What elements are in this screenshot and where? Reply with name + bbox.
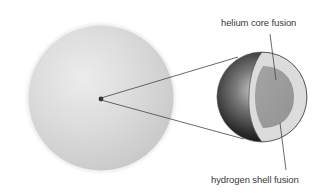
core-point: [99, 97, 104, 102]
red-giant-core-diagram: [0, 0, 327, 193]
core-cutaway: [217, 52, 307, 142]
hydrogen-shell-fusion-label: hydrogen shell fusion: [211, 174, 299, 185]
helium-core-fusion-label: helium core fusion: [221, 17, 296, 28]
